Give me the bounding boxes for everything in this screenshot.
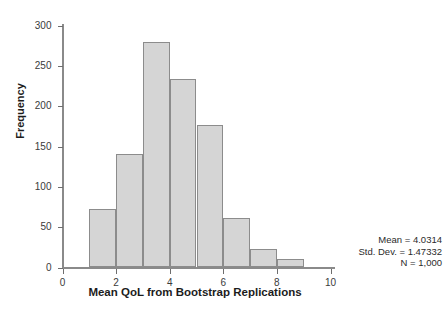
stat-n: N = 1,000 bbox=[330, 257, 442, 269]
histogram-bar bbox=[170, 79, 197, 268]
histogram-bar bbox=[89, 209, 116, 268]
histogram-bar bbox=[116, 154, 143, 268]
x-tick-mark bbox=[223, 269, 224, 274]
y-tick-label: 150 bbox=[18, 142, 52, 152]
x-tick-mark bbox=[277, 269, 278, 274]
x-tick-mark bbox=[116, 269, 117, 274]
y-tick-mark bbox=[58, 147, 63, 148]
y-tick-mark bbox=[58, 66, 63, 67]
y-tick-mark bbox=[58, 187, 63, 188]
histogram-bar bbox=[143, 42, 170, 267]
stat-mean: Mean = 4.0314 bbox=[330, 234, 442, 246]
histogram-bar bbox=[223, 218, 250, 267]
statistics-annotation: Mean = 4.0314 Std. Dev. = 1.47332 N = 1,… bbox=[330, 234, 442, 269]
histogram-bar bbox=[277, 259, 304, 267]
y-tick-mark bbox=[58, 106, 63, 107]
y-tick-label: 200 bbox=[18, 101, 52, 111]
y-tick-label: 300 bbox=[18, 21, 52, 31]
histogram-bar bbox=[197, 125, 224, 268]
y-tick-mark bbox=[58, 227, 63, 228]
x-tick-mark bbox=[331, 269, 332, 274]
x-axis-title: Mean QoL from Bootstrap Replications bbox=[60, 286, 330, 298]
histogram-bar bbox=[250, 249, 277, 268]
y-tick-label: 0 bbox=[18, 263, 52, 273]
y-tick-label: 250 bbox=[18, 61, 52, 71]
histogram-chart: Frequency 050100150200250300 0246810 Mea… bbox=[0, 0, 448, 315]
x-tick-mark bbox=[170, 269, 171, 274]
x-tick-mark bbox=[63, 269, 64, 274]
y-tick-mark bbox=[58, 26, 63, 27]
y-tick-label: 100 bbox=[18, 182, 52, 192]
stat-std-dev: Std. Dev. = 1.47332 bbox=[330, 246, 442, 258]
y-tick-label: 50 bbox=[18, 222, 52, 232]
